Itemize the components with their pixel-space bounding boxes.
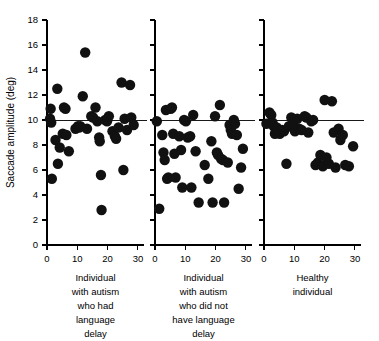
- panel-caption-line: delay: [84, 328, 107, 339]
- data-point: [281, 159, 291, 169]
- data-point: [96, 205, 106, 215]
- x-tick-label: 0: [261, 253, 266, 264]
- data-point: [95, 136, 105, 146]
- data-point: [64, 146, 74, 156]
- data-point: [203, 174, 213, 184]
- y-tick-label: 10: [27, 114, 38, 125]
- data-point: [176, 145, 186, 155]
- data-point: [104, 111, 114, 121]
- data-point: [128, 120, 138, 130]
- panel-healthy-individual: 0102030: [259, 20, 364, 264]
- data-point: [219, 197, 229, 207]
- data-point: [188, 110, 198, 120]
- data-point: [125, 80, 135, 90]
- data-point: [185, 131, 195, 141]
- data-point: [118, 165, 128, 175]
- data-point: [60, 104, 70, 114]
- scatter-chart-figure: Saccade amplitude (deg)02468101214161801…: [0, 0, 379, 341]
- x-tick-label: 10: [289, 253, 300, 264]
- x-tick-label: 0: [152, 253, 157, 264]
- data-point-group: [45, 47, 139, 215]
- data-point: [308, 115, 318, 125]
- data-point: [206, 136, 216, 146]
- data-point: [78, 91, 88, 101]
- data-point: [186, 182, 196, 192]
- panel-autism-language-delay: 0102030: [42, 20, 147, 264]
- y-tick-label: 14: [27, 64, 38, 75]
- data-point: [167, 102, 177, 112]
- panel-caption-line: delay: [192, 328, 215, 339]
- panel-caption-line: individual: [293, 286, 333, 297]
- data-point: [238, 144, 248, 154]
- y-tick-label: 18: [27, 14, 38, 25]
- data-point: [207, 197, 217, 207]
- x-tick-label: 0: [44, 253, 49, 264]
- data-point: [215, 100, 225, 110]
- x-tick-label: 10: [72, 253, 83, 264]
- data-point: [45, 104, 55, 114]
- x-tick-label: 30: [133, 253, 144, 264]
- panel-caption-line: Individual: [183, 272, 223, 283]
- y-axis-title: Saccade amplitude (deg): [5, 77, 16, 188]
- data-point: [348, 141, 358, 151]
- data-point: [303, 127, 313, 137]
- data-point-group: [152, 100, 248, 214]
- panel-caption-line: language: [76, 314, 115, 325]
- data-point: [232, 130, 242, 140]
- panel-caption-line: Individual: [75, 272, 115, 283]
- data-point: [177, 182, 187, 192]
- y-tick-label: 2: [33, 214, 38, 225]
- data-point: [53, 159, 63, 169]
- panel-caption-line: have language: [172, 314, 234, 325]
- data-point: [190, 146, 200, 156]
- y-tick-label: 12: [27, 89, 38, 100]
- data-point: [90, 102, 100, 112]
- panel-caption-line: with autism: [179, 286, 228, 297]
- panel-autism-no-language-delay: 0102030: [150, 20, 255, 264]
- data-point: [52, 84, 62, 94]
- data-point: [80, 47, 90, 57]
- data-point: [160, 155, 170, 165]
- data-point: [327, 96, 337, 106]
- x-tick-label: 10: [180, 253, 191, 264]
- y-tick-label: 8: [33, 139, 38, 150]
- data-point: [61, 130, 71, 140]
- data-point: [236, 162, 246, 172]
- data-point: [344, 161, 354, 171]
- data-point: [111, 134, 121, 144]
- data-point: [96, 170, 106, 180]
- y-tick-label: 6: [33, 164, 38, 175]
- chart-canvas: Saccade amplitude (deg)02468101214161801…: [0, 0, 379, 341]
- x-tick-label: 30: [241, 253, 252, 264]
- data-point: [230, 119, 240, 129]
- data-point: [154, 204, 164, 214]
- y-tick-label: 16: [27, 39, 38, 50]
- data-point: [200, 160, 210, 170]
- panel-caption-line: who had: [77, 300, 114, 311]
- data-point: [152, 116, 162, 126]
- data-point: [82, 124, 92, 134]
- data-point: [210, 111, 220, 121]
- data-point: [55, 142, 65, 152]
- x-tick-label: 30: [350, 253, 361, 264]
- data-point: [233, 184, 243, 194]
- data-point: [338, 130, 348, 140]
- y-tick-label: 0: [33, 239, 38, 250]
- y-tick-label: 4: [33, 189, 38, 200]
- panel-caption-line: who did not: [178, 300, 228, 311]
- data-point: [170, 172, 180, 182]
- x-tick-label: 20: [210, 253, 221, 264]
- data-point: [223, 157, 233, 167]
- panel-caption-line: with autism: [71, 286, 120, 297]
- data-point: [47, 174, 57, 184]
- x-tick-label: 20: [102, 253, 113, 264]
- data-point: [330, 162, 340, 172]
- data-point: [157, 130, 167, 140]
- data-point-group: [261, 95, 358, 173]
- data-point: [46, 117, 56, 127]
- data-point: [193, 197, 203, 207]
- x-tick-label: 20: [319, 253, 330, 264]
- panel-caption-line: Healthy: [296, 272, 328, 283]
